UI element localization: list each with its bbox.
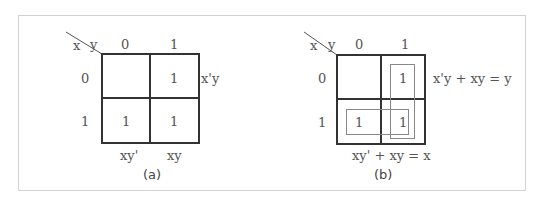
- col-header-0: 0: [121, 38, 129, 51]
- col-header-1: 1: [401, 38, 409, 51]
- col-header-1: 1: [170, 38, 178, 51]
- cell-10: 1: [122, 115, 130, 128]
- col-header-0: 0: [355, 38, 363, 51]
- term-label-x-yprime: xy': [120, 149, 138, 162]
- row-header-1: 1: [318, 116, 326, 129]
- term-label-xprime-y: x'y: [201, 72, 219, 85]
- caption-a: (a): [143, 168, 161, 181]
- cell-11: 1: [170, 115, 178, 128]
- corner-var-x: x: [73, 39, 80, 52]
- group-result-x: xy' + xy = x: [352, 149, 431, 162]
- corner-diagonal-lines: [0, 0, 543, 204]
- corner-var-x: x: [310, 39, 317, 52]
- row-header-0: 0: [318, 72, 326, 85]
- corner-var-y: y: [328, 38, 335, 51]
- row-header-1: 1: [81, 115, 89, 128]
- cell-01: 1: [399, 72, 407, 85]
- grid-divider-horizontal: [101, 97, 200, 99]
- group-result-y: x'y + xy = y: [433, 72, 512, 85]
- cell-10: 1: [355, 116, 363, 129]
- corner-var-y: y: [90, 38, 97, 51]
- caption-b: (b): [374, 168, 392, 181]
- row-header-0: 0: [81, 72, 89, 85]
- cell-11: 1: [399, 116, 407, 129]
- term-label-x-y: xy: [167, 149, 182, 162]
- cell-01: 1: [170, 72, 178, 85]
